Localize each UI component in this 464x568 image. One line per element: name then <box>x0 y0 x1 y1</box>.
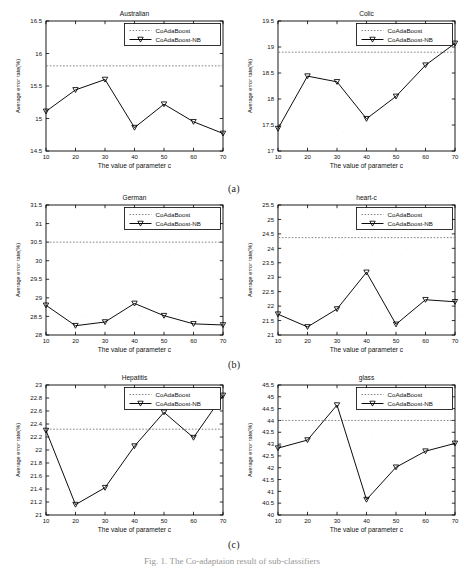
chart-title: German <box>123 194 147 201</box>
x-tick-label: 20 <box>72 338 79 344</box>
x-tick-label: 50 <box>161 338 168 344</box>
legend-label-series: CoAdaBoost-NB <box>156 36 201 43</box>
y-tick-label: 21 <box>35 512 42 518</box>
chart-panel-heart-c: heart-c2121.52222.52323.52424.52525.5102… <box>232 188 464 366</box>
chart-svg: German2828.52929.53030.53131.51020304050… <box>0 188 232 366</box>
chart-title: Hepatitis <box>122 374 148 382</box>
chart-panel-glass: glass4040.54141.54242.54343.54444.54545.… <box>232 368 464 546</box>
x-tick-label: 30 <box>334 518 341 524</box>
y-axis-label: Average error rate(%) <box>15 423 21 477</box>
chart-panel-australian: Australian14.51515.51616.510203040506070… <box>0 4 232 182</box>
y-tick-label: 24.5 <box>262 231 274 237</box>
y-tick-label: 30.5 <box>30 239 42 245</box>
x-tick-label: 70 <box>220 338 227 344</box>
y-tick-label: 18.5 <box>262 70 274 76</box>
x-tick-label: 30 <box>102 154 109 160</box>
plot-area: Colic1717.51818.51919.510203040506070The… <box>232 4 464 182</box>
y-tick-label: 16.5 <box>30 18 42 24</box>
y-tick-label: 21 <box>267 332 274 338</box>
y-tick-label: 22.6 <box>30 408 42 414</box>
figure-caption: Fig. 1. The Co-adaptaion result of sub-c… <box>0 556 464 566</box>
x-tick-label: 10 <box>43 518 50 524</box>
x-tick-label: 10 <box>43 338 50 344</box>
chart-title: heart-c <box>356 194 377 201</box>
chart-panel-german: German2828.52929.53030.53131.51020304050… <box>0 188 232 366</box>
plot-area: German2828.52929.53030.53131.51020304050… <box>0 188 232 366</box>
y-tick-label: 42.5 <box>262 453 274 459</box>
y-tick-label: 21.8 <box>30 460 42 466</box>
x-tick-label: 10 <box>275 338 282 344</box>
plot-area: Hepatitis2121.221.421.621.82222.222.422.… <box>0 368 232 546</box>
x-tick-label: 60 <box>422 154 429 160</box>
x-tick-label: 10 <box>43 154 50 160</box>
y-tick-label: 23 <box>35 382 42 388</box>
y-tick-label: 25.5 <box>262 202 274 208</box>
y-tick-label: 22 <box>267 303 274 309</box>
y-tick-label: 23.5 <box>262 260 274 266</box>
legend-label-baseline: CoAdaBoost <box>156 27 191 34</box>
legend-label-baseline: CoAdaBoost <box>156 391 191 398</box>
y-tick-label: 22.5 <box>262 289 274 295</box>
legend-label-series: CoAdaBoost-NB <box>156 220 201 227</box>
y-tick-label: 30 <box>35 258 42 264</box>
chart-title: Colic <box>359 10 374 17</box>
x-tick-label: 10 <box>275 518 282 524</box>
y-axis-label: Average error rate(%) <box>247 59 253 113</box>
y-tick-label: 44.5 <box>262 406 274 412</box>
x-tick-label: 20 <box>304 154 311 160</box>
y-axis-label: Average error rate(%) <box>15 243 21 297</box>
y-tick-label: 43.5 <box>262 429 274 435</box>
chart-svg: Hepatitis2121.221.421.621.82222.222.422.… <box>0 368 232 546</box>
subfigure-label-c: (c) <box>228 539 240 550</box>
legend-label-baseline: CoAdaBoost <box>388 27 423 34</box>
x-tick-label: 50 <box>161 154 168 160</box>
y-tick-label: 14.5 <box>30 148 42 154</box>
legend-label-series: CoAdaBoost-NB <box>156 400 201 407</box>
x-tick-label: 70 <box>452 518 459 524</box>
y-tick-label: 21.2 <box>30 499 42 505</box>
y-tick-label: 40.5 <box>262 500 274 506</box>
y-tick-label: 41.5 <box>262 477 274 483</box>
x-tick-label: 70 <box>452 154 459 160</box>
x-tick-label: 30 <box>102 338 109 344</box>
y-tick-label: 22.8 <box>30 395 42 401</box>
y-tick-label: 40 <box>267 512 274 518</box>
x-tick-label: 20 <box>304 338 311 344</box>
x-tick-label: 60 <box>190 518 197 524</box>
figure-panel-grid: Australian14.51515.51616.510203040506070… <box>0 0 464 568</box>
subfigure-label-a: (a) <box>228 183 240 194</box>
y-tick-label: 29 <box>35 295 42 301</box>
subfigure-label-b: (b) <box>228 359 240 370</box>
y-tick-label: 29.5 <box>30 276 42 282</box>
y-axis-label: Average error rate(%) <box>247 243 253 297</box>
chart-svg: heart-c2121.52222.52323.52424.52525.5102… <box>232 188 464 366</box>
y-tick-label: 21.4 <box>30 486 42 492</box>
x-tick-label: 60 <box>422 338 429 344</box>
y-tick-label: 18 <box>267 96 274 102</box>
x-tick-label: 50 <box>161 518 168 524</box>
x-tick-label: 50 <box>393 338 400 344</box>
x-tick-label: 70 <box>220 154 227 160</box>
y-tick-label: 22.4 <box>30 421 42 427</box>
legend-label-baseline: CoAdaBoost <box>388 211 423 218</box>
y-tick-label: 24 <box>267 246 274 252</box>
y-tick-label: 22.2 <box>30 434 42 440</box>
y-tick-label: 16 <box>35 51 42 57</box>
y-tick-label: 25 <box>267 217 274 223</box>
y-tick-label: 21.5 <box>262 318 274 324</box>
legend-label-baseline: CoAdaBoost <box>388 391 423 398</box>
y-tick-label: 28.5 <box>30 314 42 320</box>
plot-area: Australian14.51515.51616.510203040506070… <box>0 4 232 182</box>
x-tick-label: 50 <box>393 518 400 524</box>
chart-svg: glass4040.54141.54242.54343.54444.54545.… <box>232 368 464 546</box>
x-tick-label: 70 <box>452 338 459 344</box>
x-tick-label: 20 <box>72 518 79 524</box>
y-tick-label: 17.5 <box>262 122 274 128</box>
x-tick-label: 20 <box>304 518 311 524</box>
y-tick-label: 43 <box>267 441 274 447</box>
y-tick-label: 31 <box>35 221 42 227</box>
x-tick-label: 30 <box>102 518 109 524</box>
x-tick-label: 10 <box>275 154 282 160</box>
chart-title: glass <box>359 374 375 382</box>
chart-svg: Australian14.51515.51616.510203040506070… <box>0 4 232 182</box>
